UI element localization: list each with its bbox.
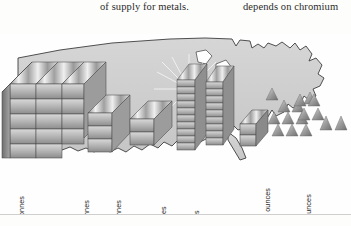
label-palladium: Palladium 1,255,000 troy ounces — [255, 188, 272, 215]
bar-cobalt — [204, 62, 238, 158]
figure-bottom-rule — [0, 214, 351, 215]
body-text-left-column: of supply for metals. — [100, 1, 189, 12]
label-bauxite-quantity: 14,500,000 tonnes — [17, 196, 26, 215]
label-manganese: Manganese 2,190,000 tonnes — [74, 200, 91, 215]
symbol-cluster-platinum — [318, 112, 350, 138]
category-label-row: Bauxite 14,500,000 tonnes Manganese 2,19… — [0, 152, 351, 215]
label-chromium-quantity: 1,780,000 tonnes — [114, 200, 123, 215]
label-bauxite: Bauxite 14,500,000 tonnes — [9, 196, 26, 215]
label-chromium: Chromium 1,780,000 tonnes — [106, 200, 123, 215]
label-platinum-quantity: 453,000 troy ounces — [304, 194, 313, 215]
label-platinum: Platinum 453,000 troy ounces — [296, 194, 313, 215]
bar-manganese — [86, 91, 132, 161]
body-text-right-column: depends on chromium — [243, 1, 338, 12]
label-palladium-quantity: 1,255,000 troy ounces — [263, 188, 272, 215]
label-manganese-quantity: 2,190,000 tonnes — [82, 200, 91, 215]
stockpile-infographic: Bauxite 14,500,000 tonnes Manganese 2,19… — [0, 34, 351, 215]
